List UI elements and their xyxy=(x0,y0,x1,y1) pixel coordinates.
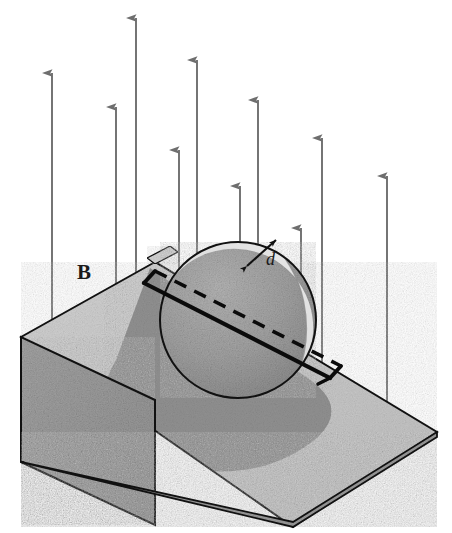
magnetic-field-label: B xyxy=(77,262,91,283)
incline-apex-notch xyxy=(147,246,178,264)
figure-canvas xyxy=(0,0,452,533)
physics-figure: B d xyxy=(0,0,452,533)
thickness-label: d xyxy=(266,250,275,268)
